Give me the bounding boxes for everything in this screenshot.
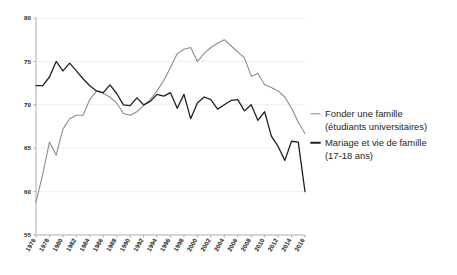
x-axis-tick-label: 2014 [279,237,292,253]
x-axis-tick-label: 2002 [199,237,212,253]
x-axis-tick-label: 1990 [118,237,131,253]
x-axis-tick-label: 2000 [185,237,198,253]
x-axis-tick-label: 2006 [226,237,239,253]
series-line-2 [36,61,305,191]
x-axis-tick-label: 2016 [293,237,306,253]
x-axis-tick-label: 1988 [105,237,118,253]
chart-legend: Fonder une famille(étudiants universitai… [311,108,427,161]
gridlines [36,18,305,192]
line-chart: 556065707580 197619781980198219841986198… [0,0,457,275]
y-axis-tick-label: 70 [24,101,31,108]
y-axis-tick-labels: 556065707580 [24,14,31,238]
y-axis-tick-label: 80 [24,14,31,21]
x-axis-tick-label: 1984 [78,237,91,253]
y-axis-tick-label: 65 [24,144,31,151]
legend-label-1-line1: Fonder une famille [325,108,403,119]
axes [34,18,306,238]
series-line-1 [36,40,305,202]
x-axis-tick-label: 1998 [172,237,185,253]
legend-label-2-line1: Mariage et vie de famille [325,137,427,148]
x-axis-tick-label: 1982 [64,237,77,253]
legend-label-1-line2: (étudiants universitaires) [325,121,427,132]
x-axis-tick-label: 1994 [145,237,158,253]
x-axis-tick-label: 1980 [51,237,64,253]
x-axis-tick-label: 2008 [239,237,252,253]
x-axis-tick-label: 1976 [24,237,37,253]
x-axis-tick-label: 1986 [91,237,104,253]
x-axis-tick-label: 1978 [37,237,50,253]
x-axis-tick-label: 1992 [132,237,145,253]
chart-container: 556065707580 197619781980198219841986198… [0,0,457,275]
legend-label-2-line2: (17-18 ans) [325,150,373,161]
x-axis-tick-labels: 1976197819801982198419861988199019921994… [24,237,306,253]
x-axis-tick-label: 2004 [212,237,225,253]
x-axis-tick-label: 2010 [253,237,266,253]
x-axis-tick-label: 2012 [266,237,279,253]
y-axis-tick-label: 60 [24,188,31,195]
x-axis-tick-label: 1996 [158,237,171,253]
y-axis-tick-label: 75 [24,58,31,65]
data-series [36,40,305,202]
